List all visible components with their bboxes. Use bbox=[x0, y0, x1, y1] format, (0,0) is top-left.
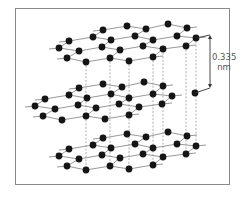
carbon-atom bbox=[56, 153, 63, 160]
carbon-atom bbox=[107, 55, 114, 62]
carbon-atom bbox=[99, 152, 106, 159]
graphene-layers bbox=[25, 21, 206, 174]
carbon-atom bbox=[66, 146, 73, 153]
carbon-atom bbox=[76, 85, 83, 92]
bottom-layer bbox=[49, 129, 206, 174]
carbon-atom bbox=[143, 134, 150, 141]
carbon-atom bbox=[174, 33, 181, 40]
carbon-atom bbox=[126, 58, 133, 65]
carbon-atom bbox=[150, 91, 157, 98]
carbon-atom bbox=[116, 101, 123, 108]
carbon-atom bbox=[90, 34, 97, 41]
carbon-atom bbox=[66, 38, 73, 45]
carbon-atom bbox=[100, 27, 107, 34]
carbon-atom bbox=[174, 141, 181, 148]
carbon-atom bbox=[160, 154, 167, 161]
carbon-atom bbox=[59, 117, 66, 124]
carbon-atom bbox=[150, 37, 157, 44]
carbon-atom bbox=[160, 46, 167, 53]
carbon-atom bbox=[83, 113, 90, 120]
carbon-atom bbox=[124, 131, 131, 138]
carbon-atom bbox=[75, 102, 82, 109]
carbon-atom bbox=[183, 43, 190, 50]
carbon-atom bbox=[126, 112, 133, 119]
carbon-atom bbox=[184, 25, 191, 32]
carbon-atom bbox=[141, 79, 148, 86]
carbon-atom bbox=[117, 155, 124, 162]
carbon-atom bbox=[160, 83, 167, 90]
carbon-atom bbox=[132, 33, 139, 40]
carbon-atom bbox=[117, 47, 124, 54]
carbon-atom bbox=[107, 163, 114, 170]
carbon-atom bbox=[76, 48, 83, 55]
carbon-atom bbox=[140, 151, 147, 158]
top-layer bbox=[49, 21, 206, 66]
layer-spacing-label: 0.335 nm bbox=[212, 52, 236, 72]
carbon-atom bbox=[165, 129, 172, 136]
carbon-atom bbox=[100, 81, 107, 88]
arrow-down-head-icon bbox=[208, 84, 212, 88]
carbon-atom bbox=[76, 156, 83, 163]
carbon-atom bbox=[52, 106, 59, 113]
carbon-atom bbox=[150, 54, 157, 61]
carbon-atom bbox=[83, 59, 90, 66]
carbon-atom bbox=[119, 84, 126, 91]
carbon-atom bbox=[165, 21, 172, 28]
carbon-atom bbox=[108, 91, 115, 98]
carbon-atom bbox=[150, 145, 157, 152]
graphite-structure-diagram: 0.335 nm bbox=[0, 0, 240, 197]
carbon-atom bbox=[42, 96, 49, 103]
carbon-atom bbox=[64, 163, 71, 170]
carbon-atom bbox=[143, 26, 150, 33]
carbon-atom bbox=[184, 133, 191, 140]
carbon-atom bbox=[140, 43, 147, 50]
carbon-atom bbox=[159, 101, 166, 108]
carbon-atom bbox=[169, 93, 176, 100]
carbon-atom bbox=[150, 162, 157, 169]
carbon-atom bbox=[132, 141, 139, 148]
carbon-atom bbox=[83, 167, 90, 174]
carbon-atom bbox=[183, 151, 190, 158]
carbon-atom bbox=[90, 142, 97, 149]
carbon-atom bbox=[102, 116, 109, 123]
carbon-atom bbox=[64, 55, 71, 62]
carbon-atom bbox=[93, 105, 100, 112]
carbon-atom bbox=[126, 95, 133, 102]
middle-layer bbox=[25, 79, 198, 124]
carbon-atom bbox=[100, 135, 107, 142]
carbon-atom bbox=[66, 92, 73, 99]
carbon-atom bbox=[193, 143, 200, 150]
carbon-atom bbox=[99, 44, 106, 51]
carbon-atom bbox=[126, 166, 133, 173]
carbon-atom bbox=[124, 23, 131, 30]
carbon-atom bbox=[56, 45, 63, 52]
carbon-atom bbox=[108, 37, 115, 44]
carbon-atom bbox=[136, 104, 143, 111]
carbon-atom bbox=[32, 103, 39, 110]
spacing-unit: nm bbox=[212, 62, 236, 72]
carbon-atom bbox=[40, 113, 47, 120]
layer-spacing-arrow bbox=[195, 35, 212, 93]
carbon-atom bbox=[84, 95, 91, 102]
interlayer-dashed-lines bbox=[86, 38, 196, 170]
spacing-value: 0.335 bbox=[212, 52, 236, 62]
carbon-atom bbox=[108, 145, 115, 152]
lattice-drawing bbox=[0, 0, 240, 197]
